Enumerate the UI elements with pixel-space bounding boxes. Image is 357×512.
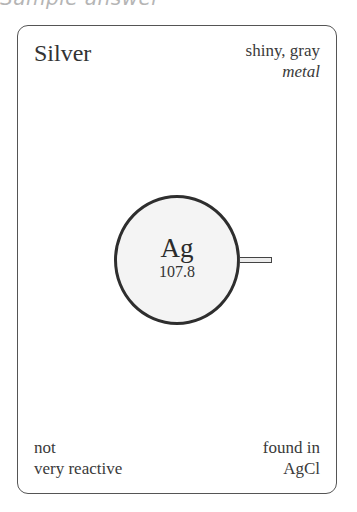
atom-circle: Ag 107.8 <box>114 195 240 325</box>
element-name: Silver <box>34 40 91 67</box>
reactivity-note: not very reactive <box>34 437 122 479</box>
answer-heading: Sample answer <box>0 0 160 10</box>
reactivity-line-1: not <box>34 437 122 458</box>
reactivity-line-2: very reactive <box>34 458 122 479</box>
found-in-compound: AgCl <box>263 458 320 479</box>
found-in-note: found in AgCl <box>263 437 320 479</box>
element-properties: shiny, gray metal <box>246 40 320 82</box>
element-symbol: Ag <box>161 234 194 262</box>
found-in-label: found in <box>263 437 320 458</box>
property-type: metal <box>246 61 320 82</box>
atomic-mass: 107.8 <box>159 262 195 282</box>
property-appearance: shiny, gray <box>246 40 320 61</box>
bond-stub <box>239 257 272 263</box>
